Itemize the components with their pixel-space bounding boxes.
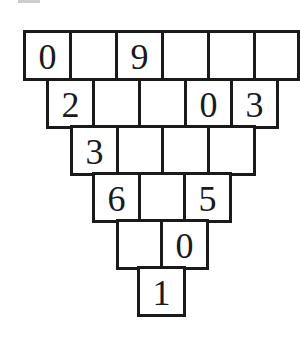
pyramid-cell-r2-c1: 2 xyxy=(46,78,95,129)
cell-value: 2 xyxy=(62,87,80,123)
cell-value: 9 xyxy=(131,39,149,75)
pyramid-cell-r1-c5 xyxy=(207,30,256,81)
pyramid-cell-r1-c4 xyxy=(161,30,210,81)
pyramid-cell-r4-c1: 6 xyxy=(92,172,141,223)
pyramid-cell-r4-c3: 5 xyxy=(183,172,232,223)
pyramid-cell-r1-c3: 9 xyxy=(115,30,164,81)
number-pyramid: 0 9 2 0 3 3 6 5 0 1 xyxy=(0,0,300,351)
pyramid-cell-r2-c3 xyxy=(138,78,187,129)
pyramid-cell-r1-c1: 0 xyxy=(23,30,72,81)
cell-value: 0 xyxy=(200,87,218,123)
cell-value: 0 xyxy=(39,39,57,75)
pyramid-cell-r5-c1 xyxy=(116,219,165,270)
pyramid-cell-r1-c6 xyxy=(253,30,300,81)
pyramid-cell-r3-c2 xyxy=(116,125,165,176)
cell-value: 6 xyxy=(108,181,126,217)
pyramid-cell-r1-c2 xyxy=(69,30,118,81)
cell-value: 3 xyxy=(246,87,264,123)
pyramid-cell-r5-c2: 0 xyxy=(160,219,209,270)
pyramid-cell-r2-c4: 0 xyxy=(184,78,233,129)
pyramid-cell-r4-c2 xyxy=(138,172,187,223)
pyramid-cell-r6-c1: 1 xyxy=(137,266,186,317)
pyramid-cell-r2-c2 xyxy=(92,78,141,129)
pyramid-cell-r2-c5: 3 xyxy=(230,78,279,129)
cell-value: 3 xyxy=(86,134,104,170)
pyramid-cell-r3-c3 xyxy=(161,125,210,176)
pyramid-cell-r3-c1: 3 xyxy=(70,125,119,176)
cell-value: 0 xyxy=(176,228,194,264)
cell-value: 5 xyxy=(199,181,217,217)
pyramid-cell-r3-c4 xyxy=(207,125,256,176)
cell-value: 1 xyxy=(153,275,171,311)
